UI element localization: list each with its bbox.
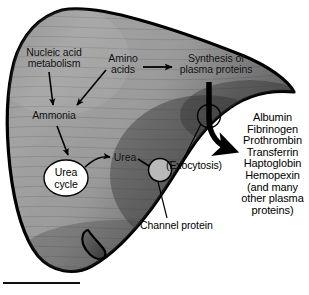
protein-list-item: Hemopexin: [236, 170, 309, 182]
label-urea-cycle: Urea cycle: [46, 167, 86, 190]
plasma-protein-list: Albumin Fibrinogen Prothrombin Transferr…: [236, 112, 309, 216]
label-ammonia: Ammonia: [26, 110, 82, 121]
scale-bar: [3, 282, 80, 284]
label-urea: Urea: [110, 152, 140, 163]
label-amino-acids: Amino acids: [101, 53, 145, 75]
protein-list-item: proteins): [236, 205, 309, 217]
label-channel-protein: Channel protein: [140, 220, 220, 231]
label-synthesis-plasma-proteins: Synthesis of plasma proteins: [170, 53, 262, 75]
liver-diagram-figure: Nucleic acid metabolism Amino acids Synt…: [0, 0, 309, 295]
label-nucleic-acid-metabolism: Nucleic acid metabolism: [10, 47, 98, 69]
protein-list-item: other plasma: [236, 193, 309, 205]
label-exocytosis: (Exocytosis): [166, 160, 234, 171]
protein-list-item: Albumin: [236, 112, 309, 124]
